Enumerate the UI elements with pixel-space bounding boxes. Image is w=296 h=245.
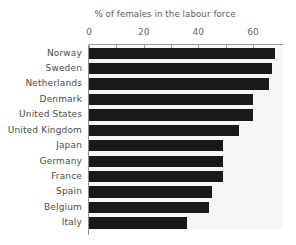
bar-row[interactable] <box>89 108 283 123</box>
bar-row[interactable] <box>89 185 283 200</box>
category-label-italy: Italy <box>62 217 82 228</box>
bar-italy[interactable] <box>89 217 187 228</box>
bar-norway[interactable] <box>89 48 275 59</box>
bars-group <box>89 45 283 230</box>
bar-row[interactable] <box>89 123 283 138</box>
category-label-germany: Germany <box>40 156 82 167</box>
bar-united-kingdom[interactable] <box>89 125 239 136</box>
category-labels: NorwaySwedenNetherlandsDenmarkUnited Sta… <box>0 45 85 230</box>
bar-netherlands[interactable] <box>89 78 269 89</box>
bar-belgium[interactable] <box>89 202 209 213</box>
x-tick-label-60: 60 <box>247 27 258 37</box>
category-label-japan: Japan <box>56 140 82 151</box>
bar-row[interactable] <box>89 46 283 61</box>
bar-denmark[interactable] <box>89 94 253 105</box>
bar-row[interactable] <box>89 216 283 231</box>
bar-sweden[interactable] <box>89 63 272 74</box>
bar-row[interactable] <box>89 154 283 169</box>
bar-row[interactable] <box>89 169 283 184</box>
bar-spain[interactable] <box>89 186 212 197</box>
bar-row[interactable] <box>89 77 283 92</box>
category-label-denmark: Denmark <box>40 94 82 105</box>
category-label-france: France <box>51 171 82 182</box>
category-label-united-states: United States <box>19 109 82 120</box>
x-tick-label-0: 0 <box>86 27 92 37</box>
category-label-spain: Spain <box>56 186 82 197</box>
bar-germany[interactable] <box>89 156 223 167</box>
bar-chart: % of females in the labour force 0204060… <box>0 0 296 245</box>
bar-united-states[interactable] <box>89 109 253 120</box>
bar-row[interactable] <box>89 139 283 154</box>
category-label-sweden: Sweden <box>46 63 82 74</box>
bar-france[interactable] <box>89 171 223 182</box>
bar-row[interactable] <box>89 61 283 76</box>
category-label-united-kingdom: United Kingdom <box>8 125 82 136</box>
x-tick-label-40: 40 <box>193 27 204 37</box>
chart-title: % of females in the labour force <box>0 9 296 19</box>
bar-row[interactable] <box>89 200 283 215</box>
x-tick-label-20: 20 <box>138 27 149 37</box>
category-label-belgium: Belgium <box>44 202 82 213</box>
bar-japan[interactable] <box>89 140 223 151</box>
category-label-netherlands: Netherlands <box>25 78 82 89</box>
bar-row[interactable] <box>89 92 283 107</box>
category-label-norway: Norway <box>47 48 82 59</box>
